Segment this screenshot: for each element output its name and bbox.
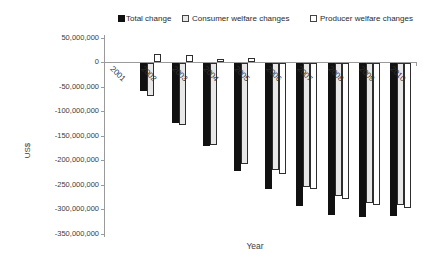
bar-total-change-2010 bbox=[390, 63, 397, 216]
bar-producer-welfare-changes-2010 bbox=[404, 63, 411, 208]
bar-total-change-2005 bbox=[234, 63, 241, 171]
legend-label: Consumer welfare changes bbox=[192, 14, 289, 23]
y-tick-mark bbox=[101, 185, 104, 186]
y-tick-mark bbox=[101, 209, 104, 210]
y-tick-label: -150,000,000 bbox=[44, 132, 99, 140]
y-tick-mark bbox=[101, 62, 104, 63]
bar-producer-welfare-changes-2008 bbox=[342, 63, 349, 199]
legend-item-total-change: Total change bbox=[118, 13, 171, 24]
bar-producer-welfare-changes-2003 bbox=[186, 55, 193, 62]
consumer-welfare-swatch-icon bbox=[182, 15, 189, 22]
legend-item-consumer-welfare: Consumer welfare changes bbox=[182, 13, 289, 24]
bar-total-change-2006 bbox=[265, 63, 272, 189]
y-axis-line bbox=[104, 35, 105, 237]
bar-producer-welfare-changes-2004 bbox=[217, 59, 224, 62]
bar-producer-welfare-changes-2005 bbox=[248, 58, 255, 62]
bar-total-change-2007 bbox=[296, 63, 303, 206]
x-tick-label-2001: 2001 bbox=[108, 65, 126, 83]
legend-label: Total change bbox=[126, 14, 171, 23]
x-axis-end-tick bbox=[416, 62, 417, 66]
bar-total-change-2009 bbox=[359, 63, 366, 217]
y-tick-mark bbox=[101, 136, 104, 137]
legend-item-producer-welfare: Producer welfare changes bbox=[310, 13, 413, 24]
bar-producer-welfare-changes-2007 bbox=[310, 63, 317, 189]
bar-producer-welfare-changes-2009 bbox=[373, 63, 380, 205]
y-tick-mark bbox=[101, 87, 104, 88]
total-change-swatch-icon bbox=[118, 15, 125, 22]
bar-producer-welfare-changes-2002 bbox=[154, 54, 161, 62]
y-tick-mark bbox=[101, 38, 104, 39]
y-tick-label: -100,000,000 bbox=[44, 107, 99, 115]
bar-total-change-2008 bbox=[328, 63, 335, 215]
bar-consumer-welfare-changes-2009 bbox=[366, 63, 373, 203]
y-tick-label: -250,000,000 bbox=[44, 181, 99, 189]
y-tick-label: 50,000,000 bbox=[44, 34, 99, 42]
y-axis-title: US$ bbox=[23, 138, 32, 164]
y-tick-label: 0 bbox=[44, 58, 99, 66]
x-axis-title: Year bbox=[205, 241, 305, 251]
y-tick-mark bbox=[101, 234, 104, 235]
y-tick-label: -50,000,000 bbox=[44, 83, 99, 91]
producer-welfare-swatch-icon bbox=[310, 15, 317, 22]
y-tick-label: -300,000,000 bbox=[44, 205, 99, 213]
welfare-changes-bar-chart: Total change Consumer welfare changes Pr… bbox=[0, 0, 446, 263]
bar-consumer-welfare-changes-2010 bbox=[397, 63, 404, 205]
chart-legend: Total change Consumer welfare changes Pr… bbox=[0, 13, 446, 25]
y-tick-label: -200,000,000 bbox=[44, 156, 99, 164]
y-tick-mark bbox=[101, 160, 104, 161]
y-tick-label: -350,000,000 bbox=[44, 230, 99, 238]
legend-label: Producer welfare changes bbox=[320, 14, 413, 23]
y-tick-mark bbox=[101, 111, 104, 112]
